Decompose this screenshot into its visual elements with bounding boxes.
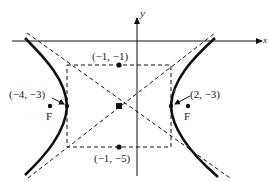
vertex-left-leader-arrow: [52, 98, 64, 104]
vertex-left-point: [65, 104, 69, 108]
vertex-right-label: (2, −3): [190, 89, 220, 100]
vertex-right-leader-arrow: [175, 96, 190, 104]
x-axis-label: x: [263, 36, 267, 45]
hyperbola-left-branch: [25, 38, 67, 175]
center-point: [116, 103, 122, 109]
focus-left-label: F: [46, 111, 52, 122]
hyperbola-right-branch: [171, 38, 218, 177]
y-axis-label: y: [140, 8, 145, 19]
vertex-left-label: (−4, −3): [9, 89, 45, 100]
co-vertex-bottom-label: (−1, −5): [94, 153, 130, 164]
focus-right-point: [186, 104, 190, 108]
focus-left-point: [48, 104, 52, 108]
co-vertex-top-point: [116, 62, 121, 67]
co-vertex-bottom-point: [116, 144, 121, 149]
focus-right-label: F: [184, 111, 190, 122]
co-vertex-top-label: (−1, −1): [92, 51, 128, 62]
vertex-right-point: [169, 104, 173, 108]
